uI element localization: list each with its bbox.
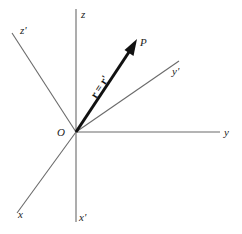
origin-label: O <box>57 126 65 138</box>
z-axis-label: z <box>80 8 86 20</box>
y-axis-label: y <box>223 126 229 138</box>
y-prime-axis-label: y' <box>171 65 180 77</box>
coordinate-frames-diagram: z z' P y' O y x x' r = r' <box>0 0 242 234</box>
x-axis-label: x <box>17 208 23 220</box>
z-prime-axis <box>12 33 76 132</box>
x-axis <box>17 132 76 213</box>
z-prime-axis-label: z' <box>19 24 27 36</box>
x-prime-axis-label: x' <box>78 211 87 223</box>
point-p-label: P <box>139 36 147 48</box>
